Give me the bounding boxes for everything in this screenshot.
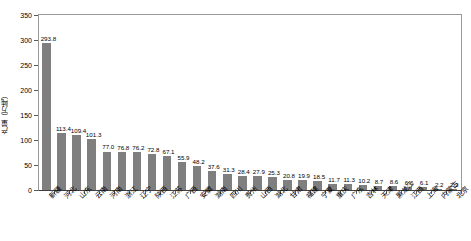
bar-value-label: 31.3 [223,167,235,174]
bar-slot[interactable]: 55.9 [175,15,190,190]
bar-value-label: 18.5 [313,174,325,181]
bar-value-label: 72.8 [147,147,159,154]
y-tick-label: 50 [24,162,32,169]
bar-slot[interactable]: 25.3 [265,15,280,190]
x-axis-labels: 新疆河北山东云南河南浙江辽宁陕西江苏广西安徽湖南四川贵州山西湖北甘肃福建宁夏重庆… [39,195,467,241]
y-tick-label: 350 [20,12,32,19]
bar-slot[interactable]: 8.6 [385,15,400,190]
bar-value-label: 37.6 [208,164,220,171]
bar-value-label: 28.4 [238,169,250,176]
y-tick-label: 150 [20,112,32,119]
bar-value-label: 11.3 [343,177,355,184]
bar-slot[interactable]: 6.6 [401,15,416,190]
bar-slot[interactable]: 76.2 [129,15,144,190]
y-tick-label: 300 [20,37,32,44]
bar-chart: 产量（万吨） 050100150200250300350 293.8113.41… [0,0,471,241]
bar-value-label: 19.9 [298,173,310,180]
bar-slot[interactable]: 37.6 [205,15,220,190]
bar-slot[interactable]: 10.2 [355,15,370,190]
bar-slot[interactable]: 8.7 [370,15,385,190]
bar-value-label: 11.7 [328,177,340,184]
bar-slot[interactable]: 11.7 [325,15,340,190]
bar-slot[interactable]: 76.8 [114,15,129,190]
bar-value-label: 48.2 [193,159,205,166]
bar-value-label: 77.0 [102,144,114,151]
bar-slot[interactable]: 2.2 [446,15,461,190]
bar-slot[interactable]: 2.2 [431,15,446,190]
bar-value-label: 76.2 [132,145,144,152]
bar-slot[interactable]: 27.9 [250,15,265,190]
bar-slot[interactable]: 77.0 [99,15,114,190]
bar-slot[interactable]: 11.3 [340,15,355,190]
bar-slot[interactable]: 72.8 [144,15,159,190]
bar-slot[interactable]: 18.5 [310,15,325,190]
bar[interactable] [57,133,66,190]
y-tick-label: 0 [28,187,32,194]
y-tick-label: 100 [20,137,32,144]
bar-slot[interactable]: 6.1 [416,15,431,190]
bar-slot[interactable]: 109.4 [69,15,84,190]
bar-value-label: 25.3 [268,170,280,177]
bar-slot[interactable]: 48.2 [190,15,205,190]
bar-value-label: 55.9 [178,155,190,162]
bar-slot[interactable]: 19.9 [295,15,310,190]
bars-container: 293.8113.4109.4101.377.076.876.272.867.1… [39,15,461,190]
bar-slot[interactable]: 101.3 [84,15,99,190]
bar-value-label: 27.9 [253,169,265,176]
bar[interactable] [42,43,51,190]
y-tick-label: 200 [20,87,32,94]
y-axis: 050100150200250300350 [0,0,38,192]
bar-value-label: 20.8 [283,173,295,180]
bar-value-label: 67.1 [162,149,174,156]
y-tick-label: 250 [20,62,32,69]
bar-slot[interactable]: 20.8 [280,15,295,190]
bar-value-label: 8.6 [390,179,399,186]
bar-slot[interactable]: 31.3 [220,15,235,190]
bar-slot[interactable]: 293.8 [39,15,54,190]
bar-value-label: 8.7 [375,179,384,186]
bar-value-label: 10.2 [358,178,370,185]
bar-slot[interactable]: 67.1 [160,15,175,190]
bar[interactable] [87,139,96,190]
bar-slot[interactable]: 113.4 [54,15,69,190]
bar-value-label: 76.8 [117,145,129,152]
bar[interactable] [72,135,81,190]
bar-slot[interactable]: 28.4 [235,15,250,190]
